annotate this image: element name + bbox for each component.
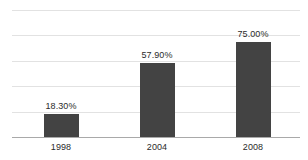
x-axis-line <box>12 137 300 138</box>
bar-1998[interactable] <box>44 114 79 137</box>
plot-area <box>12 0 300 138</box>
gridline-100 <box>12 10 300 11</box>
value-label-2004: 57.90% <box>127 50 187 61</box>
category-label-2004: 2004 <box>127 141 187 153</box>
value-label-1998: 18.30% <box>31 101 91 112</box>
bar-chart: 18.30% 57.90% 75.00% 1998 2004 2008 <box>0 0 308 160</box>
bar-2004[interactable] <box>140 63 175 137</box>
bar-2008[interactable] <box>236 42 271 137</box>
value-label-2008: 75.00% <box>223 29 283 40</box>
category-label-2008: 2008 <box>223 141 283 153</box>
category-label-1998: 1998 <box>31 141 91 153</box>
